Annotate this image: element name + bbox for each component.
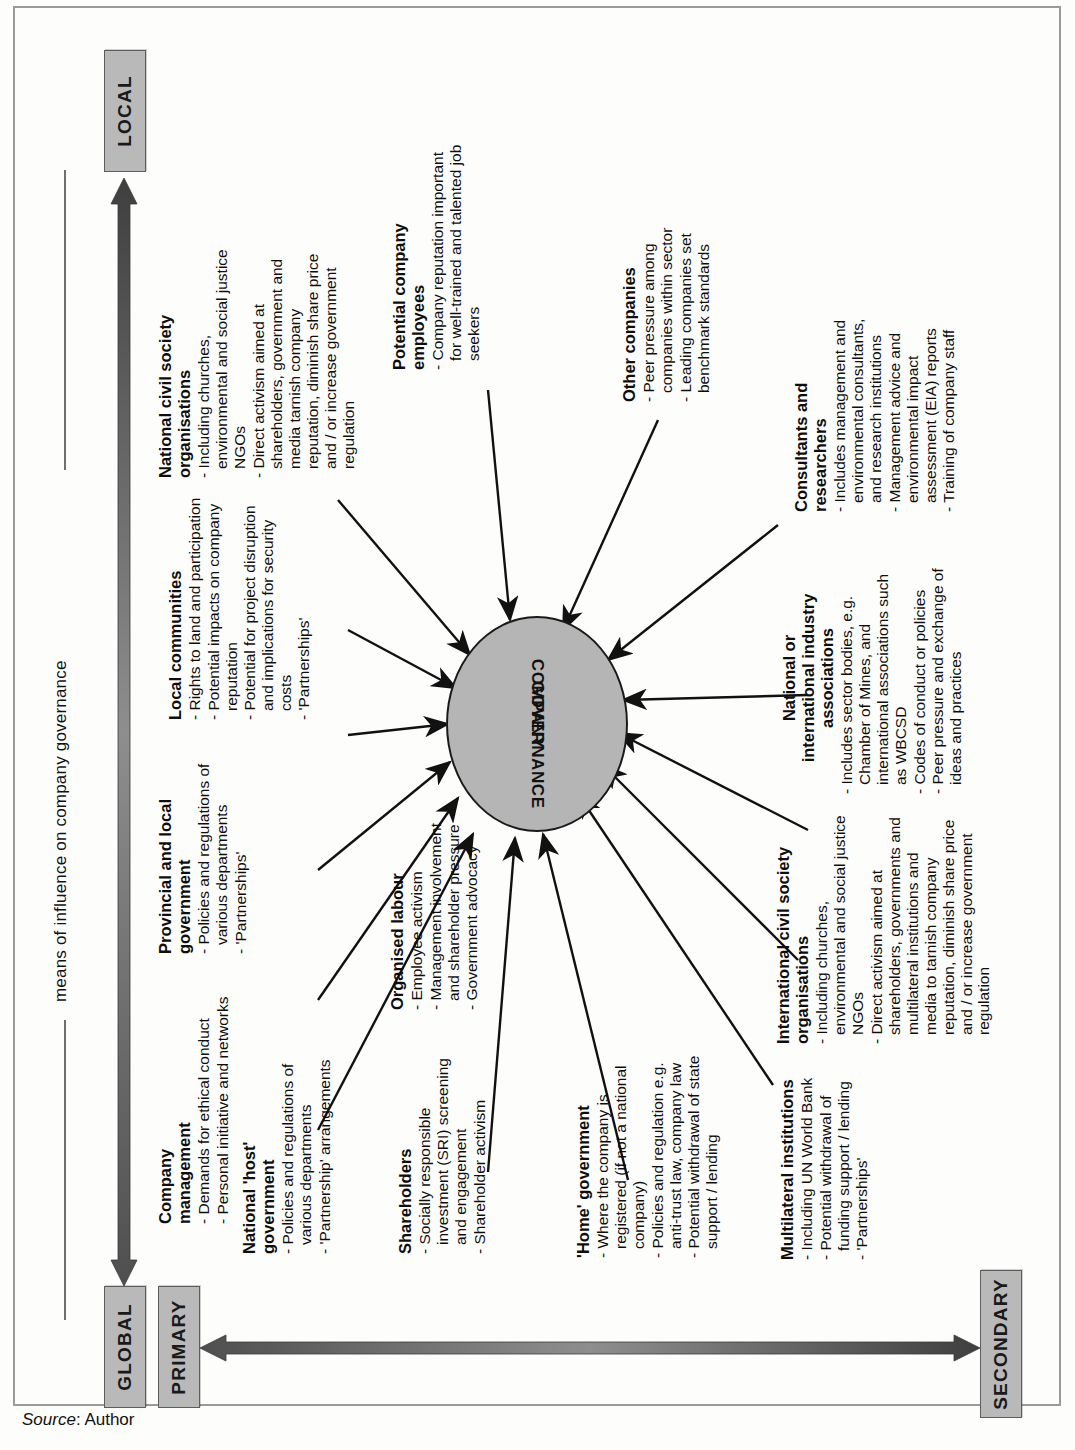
- node-bullet: Company reputation important for well-tr…: [429, 138, 483, 370]
- node-national-host-government: National 'host' government Policies and …: [240, 1050, 334, 1254]
- node-title: Company management: [156, 976, 194, 1224]
- node-bullet: Potential withdrawal of state support / …: [684, 1036, 720, 1258]
- node-bullet: Policies and regulation e.g. anti-trust …: [648, 1036, 684, 1258]
- node-provincial-and-local-government: Provincial and local government Policies…: [156, 740, 250, 954]
- node-bullets: Including UN World Bank Potential withdr…: [798, 1052, 871, 1260]
- node-bullet: Including churches, environmental and so…: [813, 806, 867, 1044]
- node-bullet: Includes management and environmental co…: [831, 290, 885, 512]
- node-potential-company-employees: Potential company employees Company repu…: [390, 138, 483, 370]
- node-national-civil-society-organisations: National civil society organisations Inc…: [156, 246, 357, 478]
- node-bullets: Policies and regulations of various depa…: [279, 1050, 333, 1254]
- diagram-canvas: means of influence on company governance…: [18, 20, 1058, 1430]
- node-bullet: 'Partnership' arrangements: [315, 1050, 333, 1254]
- axis-chip-global: GLOBAL: [104, 1286, 146, 1408]
- node-bullet: Rights to land and participation: [186, 496, 204, 720]
- node-bullet: Management advice and environmental impa…: [885, 290, 939, 512]
- node-bullet: Leading companies set benchmark standard…: [676, 188, 712, 402]
- node-title: Shareholders: [396, 1054, 415, 1254]
- axis-chip-secondary: SECONDARY: [980, 1270, 1022, 1418]
- node-bullet: 'Partnerships': [853, 1052, 871, 1260]
- node-bullet: Personal initiative and networks: [213, 976, 231, 1224]
- node-bullet: Demands for ethical conduct: [195, 976, 213, 1224]
- node-bullets: Including churches, environmental and so…: [813, 806, 993, 1044]
- node-title: Provincial and local government: [156, 740, 194, 954]
- source-value: : Author: [76, 1410, 135, 1429]
- node-title: 'Home' government: [574, 1036, 593, 1258]
- node-other-companies: Other companies Peer pressure among comp…: [620, 188, 713, 402]
- node-title: Local communities: [166, 496, 185, 720]
- node-bullet: Employee activism: [408, 796, 426, 1010]
- figure-page: means of influence on company governance…: [0, 0, 1075, 1450]
- node-bullet: Training of company staff: [940, 290, 958, 512]
- node-bullet: Includes sector bodies, e.g. Chamber of …: [838, 562, 910, 794]
- node-bullets: Rights to land and participation Potenti…: [186, 496, 313, 720]
- node-bullet: Peer pressure and exchange of ideas and …: [929, 562, 965, 794]
- axis-bar-global-local: [110, 178, 138, 1286]
- hub-label: COMPANY GOVERNANCE: [473, 693, 601, 754]
- node-bullet: 'Partnerships': [295, 496, 313, 720]
- node-bullets: Includes management and environmental co…: [831, 290, 958, 512]
- node-bullets: Socially responsible investment (SRI) sc…: [416, 1054, 488, 1254]
- node-bullets: Demands for ethical conduct Personal ini…: [195, 976, 231, 1224]
- node-bullets: Company reputation important for well-tr…: [429, 138, 483, 370]
- node-shareholders: Shareholders Socially responsible invest…: [396, 1054, 489, 1254]
- node-bullet: 'Partnerships': [231, 740, 249, 954]
- node-title: Multilateral institutions: [778, 1052, 797, 1260]
- node-title: Consultants and researchers: [792, 290, 830, 512]
- node-bullet: Policies and regulations of various depa…: [195, 740, 231, 954]
- node-bullet: Management involvement and shareholder p…: [426, 796, 462, 1010]
- axis-bar-primary-secondary: [200, 1334, 980, 1362]
- node-national-or-international-industry-associations: National or international industry assoc…: [780, 562, 965, 794]
- axis-chip-local: LOCAL: [104, 50, 146, 172]
- node-bullet: Peer pressure among companies within sec…: [640, 188, 676, 402]
- node-bullets: Including churches, environmental and so…: [195, 246, 357, 478]
- node-bullets: Employee activism Management involvement…: [408, 796, 481, 1010]
- node-bullet: Government advocacy: [463, 796, 481, 1010]
- title-rule-left: [64, 1020, 66, 1320]
- node-local-communities: Local communities Rights to land and par…: [166, 496, 313, 720]
- node-title: National civil society organisations: [156, 246, 194, 478]
- node-title: Organised labour: [388, 796, 407, 1010]
- source-note: Source: Author: [22, 1410, 134, 1430]
- node-home-government: 'Home' government Where the company is r…: [574, 1036, 721, 1258]
- node-title: Other companies: [620, 188, 639, 402]
- node-bullets: Includes sector bodies, e.g. Chamber of …: [838, 562, 965, 794]
- node-title: International civil society organisation…: [774, 806, 812, 1044]
- node-bullet: Potential withdrawal of funding support …: [816, 1052, 852, 1260]
- node-bullet: Policies and regulations of various depa…: [279, 1050, 315, 1254]
- node-international-civil-society-organisations: International civil society organisation…: [774, 806, 993, 1044]
- node-bullet: Direct activism aimed at shareholders, g…: [249, 246, 357, 478]
- node-bullets: Peer pressure among companies within sec…: [640, 188, 712, 402]
- node-organised-labour: Organised labour Employee activism Manag…: [388, 796, 481, 1010]
- node-bullet: Socially responsible investment (SRI) sc…: [416, 1054, 470, 1254]
- hub-label-line2: GOVERNANCE: [526, 680, 546, 808]
- node-title: National or international industry assoc…: [780, 562, 837, 794]
- node-bullets: Policies and regulations of various depa…: [195, 740, 249, 954]
- axis-chip-primary: PRIMARY: [158, 1286, 200, 1408]
- node-company-management: Company management Demands for ethical c…: [156, 976, 232, 1224]
- node-bullet: Shareholder activism: [470, 1054, 488, 1254]
- figure-title: means of influence on company governance: [51, 660, 71, 1002]
- node-multilateral-institutions: Multilateral institutions Including UN W…: [778, 1052, 871, 1260]
- node-title: Potential company employees: [390, 138, 428, 370]
- node-consultants-and-researchers: Consultants and researchers Includes man…: [792, 290, 958, 512]
- node-bullet: Where the company is registered (if not …: [594, 1036, 648, 1258]
- node-bullet: Direct activism aimed at shareholders, g…: [867, 806, 993, 1044]
- rotated-figure-wrapper: means of influence on company governance…: [0, 0, 1075, 1450]
- source-label: Source: [22, 1410, 76, 1429]
- node-bullet: Including UN World Bank: [798, 1052, 816, 1260]
- node-bullet: Including churches, environmental and so…: [195, 246, 249, 478]
- title-rule-right: [64, 170, 66, 470]
- node-bullet: Codes of conduct or policies: [910, 562, 928, 794]
- node-bullet: Potential impacts on company reputation: [204, 496, 240, 720]
- node-title: National 'host' government: [240, 1050, 278, 1254]
- node-bullet: Potential for project disruption and imp…: [241, 496, 295, 720]
- node-bullets: Where the company is registered (if not …: [594, 1036, 721, 1258]
